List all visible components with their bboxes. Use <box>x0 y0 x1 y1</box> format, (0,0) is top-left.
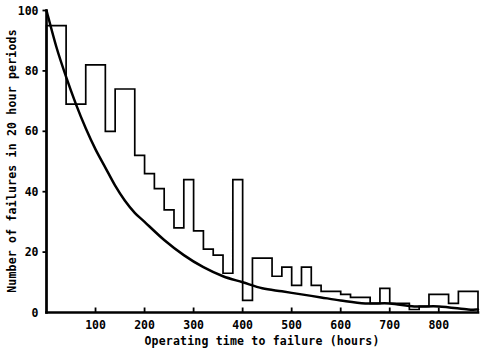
y-axis-tick-labels: 020406080100 <box>18 4 39 320</box>
failure-histogram-figure: 020406080100 100200300400500600700800 Op… <box>0 0 481 358</box>
y-tick-label-80: 80 <box>25 64 39 78</box>
x-tick-label-200: 200 <box>134 318 155 332</box>
x-axis-title: Operating time to failure (hours) <box>144 334 379 348</box>
x-tick-label-600: 600 <box>330 318 351 332</box>
y-tick-label-100: 100 <box>18 4 39 18</box>
chart-canvas: 020406080100 100200300400500600700800 Op… <box>0 0 481 358</box>
y-tick-label-0: 0 <box>32 306 39 320</box>
x-tick-label-400: 400 <box>232 318 253 332</box>
x-tick-label-800: 800 <box>428 318 449 332</box>
fitted-exponential-curve <box>47 11 479 310</box>
axes-spines <box>47 11 479 313</box>
y-tick-label-40: 40 <box>25 185 39 199</box>
x-tick-label-700: 700 <box>379 318 400 332</box>
x-tick-label-500: 500 <box>281 318 302 332</box>
y-tick-label-60: 60 <box>25 124 39 138</box>
x-tick-label-100: 100 <box>85 318 106 332</box>
histogram-step-outline <box>47 26 479 313</box>
x-axis-tick-labels: 100200300400500600700800 <box>85 318 449 332</box>
y-tick-label-20: 20 <box>25 245 39 259</box>
y-axis-title: Number of failures in 20 hour periods <box>5 29 19 293</box>
x-tick-label-300: 300 <box>183 318 204 332</box>
